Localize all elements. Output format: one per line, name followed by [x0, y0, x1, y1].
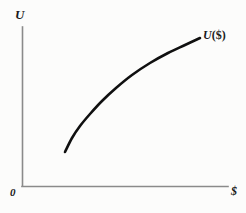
curve-label-name: U [203, 28, 212, 42]
utility-curve [65, 38, 200, 152]
y-axis-label: U [15, 8, 24, 21]
curve-label-arg: ($) [212, 28, 226, 42]
utility-function-figure: U $ 0 U($) [0, 0, 246, 213]
x-axis-label: $ [231, 185, 237, 197]
curve-label: U($) [203, 29, 226, 41]
origin-label: 0 [10, 187, 16, 198]
